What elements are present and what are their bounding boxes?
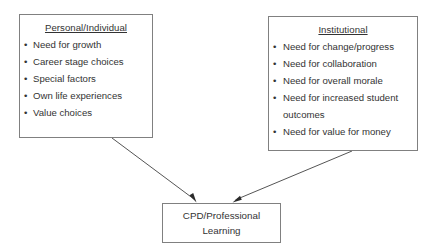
- arrow-personal-head: [190, 193, 197, 203]
- node-personal-list: Need for growth Career stage choices Spe…: [20, 36, 152, 121]
- list-item: Own life experiences: [24, 87, 150, 104]
- list-item: Need for overall morale: [273, 72, 415, 89]
- list-item: Need for collaboration: [273, 55, 415, 72]
- node-personal-title: Personal/Individual: [20, 22, 152, 34]
- node-institutional-title: Institutional: [269, 24, 417, 36]
- list-item: Need for value for money: [273, 123, 415, 140]
- diagram-canvas: Personal/Individual Need for growth Care…: [0, 0, 432, 249]
- arrow-institutional-to-cpd: [233, 151, 352, 203]
- list-item: Special factors: [24, 70, 150, 87]
- list-item: Need for change/progress: [273, 38, 415, 55]
- arrow-institutional-head: [233, 196, 242, 203]
- node-institutional-list: Need for change/progress Need for collab…: [269, 38, 417, 140]
- node-cpd-line1: CPD/Professional: [183, 210, 260, 221]
- node-cpd-line2: Learning: [202, 225, 240, 236]
- node-cpd-professional-learning: CPD/Professional Learning: [162, 203, 281, 243]
- node-personal-individual: Personal/Individual Need for growth Care…: [19, 14, 153, 138]
- list-item: Value choices: [24, 104, 150, 121]
- list-item: Career stage choices: [24, 53, 150, 70]
- node-cpd-text: CPD/Professional Learning: [179, 208, 264, 238]
- node-institutional: Institutional Need for change/progress N…: [268, 16, 418, 151]
- list-item: Need for growth: [24, 36, 150, 53]
- arrow-personal-to-cpd: [112, 138, 197, 203]
- arrow-personal-line: [112, 138, 195, 200]
- list-item: Need for increased student outcomes: [273, 89, 415, 123]
- arrow-institutional-line: [236, 151, 353, 200]
